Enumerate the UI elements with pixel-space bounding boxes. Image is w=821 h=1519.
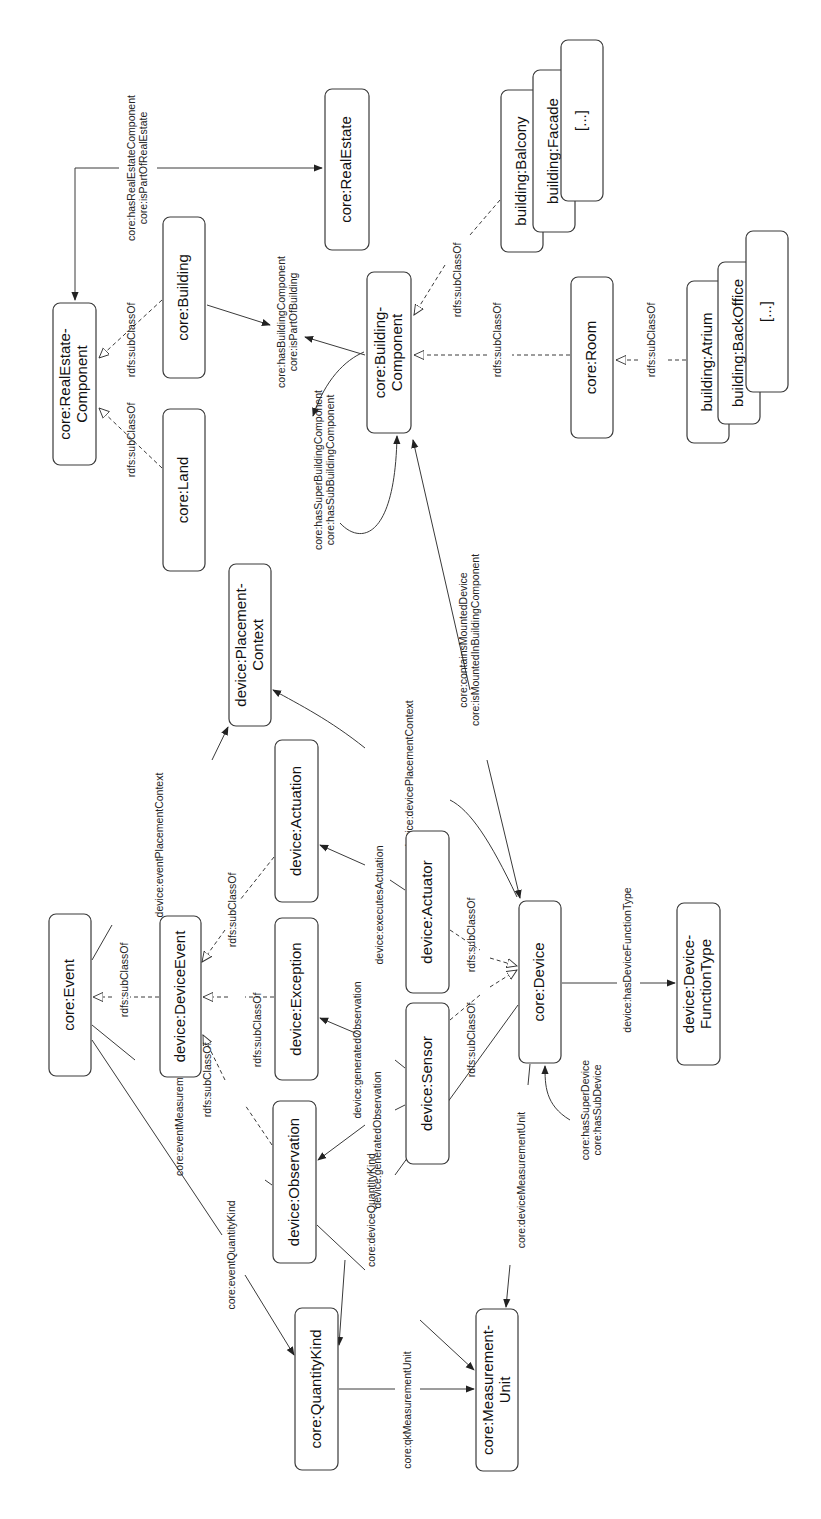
node-actuation: device:Actuation <box>275 740 318 902</box>
edge-label: rdfs:subClassOf <box>201 1043 213 1118</box>
edge-e-sensor-sub <box>490 970 517 987</box>
edge-label: core:containsMountedDevicecore:isMounted… <box>457 554 481 726</box>
node-label: core:RealEstate <box>337 116 354 223</box>
edge-label: core:hasSuperBuildingComponentcore:hasSu… <box>312 390 336 550</box>
edge-label: rdfs:subClassOf <box>645 303 657 378</box>
edge-e-sensor-exception <box>395 1060 405 1068</box>
edge-e-building-has-bc <box>207 305 270 325</box>
edge-e-obs-unit <box>420 1320 474 1370</box>
node-label: building:Facade <box>544 98 561 204</box>
edge-label: rdfs:subClassOf <box>451 243 463 318</box>
edge-label: rdfs:subClassOf <box>491 303 503 378</box>
node-device-event: device:DeviceEvent <box>160 916 201 1077</box>
edge-label: core:hasRealEstateComponentcore:isPartOf… <box>125 95 149 241</box>
edge-e-device-placement <box>450 800 517 897</box>
node-realestate-component: core:RealEstate-Component <box>53 303 96 465</box>
node-label: core:Building <box>174 254 191 341</box>
node-label: device:Observation <box>284 1118 301 1246</box>
edge-e-actuation-sub <box>240 857 274 900</box>
node-realestate: core:RealEstate <box>325 89 369 250</box>
node-label: device:Exception <box>286 942 303 1055</box>
node-label: core:Building-Component <box>370 307 404 399</box>
node-label: device:Actuator <box>417 860 434 963</box>
node-label: device:Sensor <box>417 1036 434 1131</box>
edge-e-event-unit <box>265 1180 272 1185</box>
node-land: core:Land <box>163 409 205 571</box>
node-label: building:Balcony <box>512 116 529 226</box>
node-event: core:Event <box>49 914 91 1076</box>
edge-label: rdfs:subClassOf <box>118 943 130 1018</box>
node-quantity-kind: core:QuantityKind <box>295 1308 338 1470</box>
edge-label: rdfs:subClassOf <box>125 303 137 378</box>
edge-e-mounted <box>487 760 520 898</box>
edge-label: core:hasBuildingComponentcore:isPartOfBu… <box>275 256 299 388</box>
node-measurement-unit: core:Measurement-Unit <box>476 1309 518 1471</box>
edge-label: core:hasSuperDevicecore:hasSubDevice <box>579 1060 603 1161</box>
edge-label: rdfs:subClassOf <box>125 403 137 478</box>
node-room-more: [...] <box>746 231 788 392</box>
edge-e-event-placement <box>212 727 228 760</box>
edge-e-device-placement <box>273 690 365 748</box>
edge-e-obs-unit <box>317 1225 365 1270</box>
node-exception: device:Exception <box>275 918 318 1080</box>
edge-e-balcony-sub <box>470 200 500 235</box>
node-label: device:DeviceEvent <box>170 930 187 1063</box>
edge-label: rdfs:subClassOf <box>465 898 477 973</box>
edge-e-sensor-observation <box>395 1105 405 1110</box>
node-function-type: device:Device-FunctionType <box>677 903 720 1065</box>
edge-label: rdfs:subClassOf <box>465 1003 477 1078</box>
edge-label: device:eventPlacementContext <box>153 773 165 918</box>
node-sensor: device:Sensor <box>406 1003 449 1164</box>
edge-e-event-placement <box>92 925 112 960</box>
edge-label: device:executesActuation <box>373 845 385 964</box>
node-observation: device:Observation <box>273 1101 316 1263</box>
edge-e-event-qk <box>245 1275 294 1355</box>
node-room: core:Room <box>571 277 613 438</box>
edge-label: device:generatedObservation <box>371 1071 383 1208</box>
edge-e-re-has-component <box>75 168 119 300</box>
edge-e-actuator-sub <box>490 958 517 966</box>
node-label: core:QuantityKind <box>306 1329 323 1448</box>
node-label: [...] <box>757 301 774 322</box>
node-label: core:Land <box>174 457 191 524</box>
node-label: core:Event <box>60 958 77 1031</box>
edge-e-device-unit <box>528 1064 530 1085</box>
edge-e-observation-sub <box>245 1105 272 1145</box>
edge-e-bc-self <box>340 436 397 534</box>
node-label: core:Room <box>582 321 599 394</box>
edge-label: core:eventQuantityKind <box>225 1200 237 1309</box>
node-label: device:Device-FunctionType <box>680 935 714 1033</box>
edge-label: rdfs:subClassOf <box>226 873 238 948</box>
edge-e-building-has-bc <box>305 337 365 355</box>
edge-label: device:generatedObservation <box>351 981 363 1118</box>
node-label: building:BackOffice <box>729 279 746 407</box>
edge-e-sensor-observation <box>318 1125 365 1160</box>
edge-label: core:deviceMeasurementUnit <box>515 1112 527 1249</box>
edge-e-balcony-sub <box>414 265 445 315</box>
node-label: device:Actuation <box>286 766 303 876</box>
ontology-diagram: core:hasRealEstateComponentcore:isPartOf… <box>0 0 821 1519</box>
edge-label: rdfs:subClassOf <box>251 993 263 1068</box>
edge-label: device:devicePlacementContext <box>403 700 415 849</box>
node-bc-more: [...] <box>561 40 603 201</box>
node-layer: core:RealEstate-Componentcore:RealEstate… <box>49 40 788 1471</box>
edge-e-actuator-actuation <box>390 880 405 890</box>
edge-e-actuator-actuation <box>320 845 365 865</box>
node-actuator: device:Actuator <box>406 831 449 993</box>
edge-e-event-unit <box>92 1025 135 1060</box>
edge-label: core:qkMeasurementUnit <box>401 1351 413 1468</box>
edge-e-device-unit <box>506 1265 510 1307</box>
node-label: building:Atrium <box>698 312 715 411</box>
edge-e-actuation-sub <box>202 930 225 962</box>
edge-label: device:hasDeviceFunctionType <box>621 887 633 1032</box>
edge-e-device-qk <box>339 1260 345 1345</box>
node-label: [...] <box>572 110 589 131</box>
node-building: core:Building <box>163 217 205 378</box>
edge-e-device-self <box>545 1066 570 1120</box>
node-label: core:Device <box>530 942 547 1021</box>
node-device: core:Device <box>519 901 561 1063</box>
node-building-component: core:Building-Component <box>367 272 411 433</box>
node-placement-context: device:Placement-Context <box>229 564 271 726</box>
